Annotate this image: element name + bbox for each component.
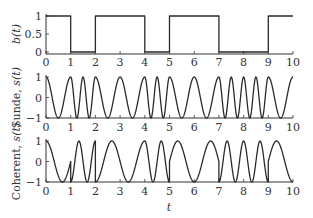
y-tick-label: −1 (26, 112, 42, 125)
bit-sequence-curve (46, 16, 293, 52)
x-tick-label: 10 (286, 121, 300, 134)
x-tick-label: 4 (141, 121, 148, 134)
x-tick-label: 0 (43, 185, 50, 198)
y-axis-label: b(t) (10, 24, 23, 44)
fsk-figure: 01234567891000.51b(t) 012345678910−101Su… (0, 0, 313, 218)
x-tick-label: 6 (191, 56, 198, 69)
y-tick-label: 1 (35, 135, 42, 148)
x-tick-label: 2 (92, 56, 99, 69)
y-axis-label: Coherent, s(t) (10, 123, 23, 201)
x-tick-label: 1 (67, 121, 74, 134)
y-tick-label: 0.5 (25, 28, 43, 41)
x-tick-label: 3 (117, 121, 124, 134)
x-tick-label: 10 (286, 185, 300, 198)
y-axis-label: Sunde, s(t) (10, 67, 23, 128)
x-tick-label: 9 (265, 185, 272, 198)
x-tick-label: 5 (166, 56, 173, 69)
x-tick-label: 1 (67, 185, 74, 198)
x-tick-label: 3 (117, 185, 124, 198)
x-tick-label: 6 (191, 185, 198, 198)
x-tick-label: 7 (215, 56, 222, 69)
sunde-fsk-curve (46, 77, 293, 118)
x-tick-label: 5 (166, 121, 173, 134)
x-tick-label: 7 (215, 185, 222, 198)
x-tick-label: 8 (240, 185, 247, 198)
x-tick-label: 2 (92, 185, 99, 198)
x-tick-label: 8 (240, 121, 247, 134)
y-tick-label: 0 (35, 156, 42, 169)
x-tick-label: 2 (92, 121, 99, 134)
x-tick-label: 8 (240, 56, 247, 69)
y-tick-label: 1 (35, 10, 42, 23)
x-tick-label: 3 (117, 56, 124, 69)
sunde-fsk-panel: 012345678910−101Sunde, s(t) (10, 67, 300, 134)
bit-sequence-panel: 01234567891000.51b(t) (10, 10, 300, 69)
y-tick-label: 0 (35, 92, 42, 105)
x-axis-label: t (167, 201, 172, 214)
y-tick-label: 0 (35, 46, 42, 59)
x-tick-label: 5 (166, 185, 173, 198)
coherent-fsk-curve (46, 141, 293, 182)
x-tick-label: 7 (215, 121, 222, 134)
x-tick-label: 0 (43, 56, 50, 69)
x-tick-label: 1 (67, 56, 74, 69)
x-tick-label: 6 (191, 121, 198, 134)
x-tick-label: 9 (265, 56, 272, 69)
y-tick-label: −1 (26, 176, 42, 189)
x-tick-label: 9 (265, 121, 272, 134)
x-tick-label: 4 (141, 185, 148, 198)
x-tick-label: 0 (43, 121, 50, 134)
x-tick-label: 10 (286, 56, 300, 69)
x-tick-label: 4 (141, 56, 148, 69)
coherent-fsk-panel: 012345678910−101Coherent, s(t) (10, 123, 300, 201)
y-tick-label: 1 (35, 71, 42, 84)
